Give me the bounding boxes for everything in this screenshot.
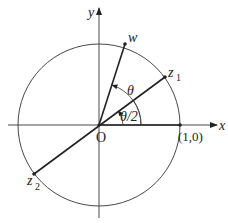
- y-axis-label: y: [86, 5, 95, 20]
- half-theta-label: θ/2: [120, 109, 138, 124]
- x-axis-label: x: [218, 118, 226, 133]
- origin-label: O: [96, 130, 106, 145]
- z2-subscript: 2: [35, 181, 40, 192]
- z2-label: z: [26, 173, 33, 188]
- z1-label: z: [167, 65, 174, 80]
- point-z2: [32, 172, 36, 176]
- point-w: [123, 42, 127, 46]
- point-origin: [97, 123, 100, 126]
- point-unit: [178, 123, 182, 127]
- unit-point-label: (1,0): [178, 129, 203, 144]
- theta-label: θ: [127, 83, 134, 98]
- z1-subscript: 1: [176, 72, 181, 83]
- w-label: w: [128, 30, 138, 45]
- unit-circle-diagram: y x O w z 1 z 2 (1,0) θ θ/2: [0, 0, 228, 223]
- point-z1: [163, 75, 167, 79]
